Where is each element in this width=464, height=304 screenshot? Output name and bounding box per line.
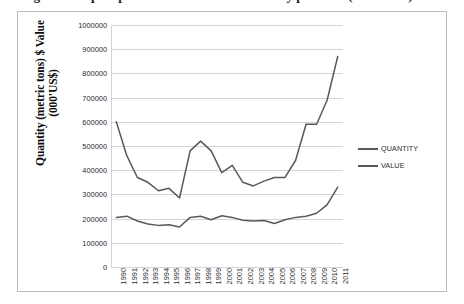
x-axis-tick-label: 2008 — [309, 268, 318, 304]
x-axis-tick-label: 2004 — [267, 268, 276, 304]
y-axis-tick-label: 100000 — [51, 238, 107, 247]
y-axis-tick-label: 600000 — [51, 117, 107, 126]
x-axis-tick-label: 2007 — [299, 268, 308, 304]
x-axis-tick-label: 1997 — [193, 268, 202, 304]
legend-item-label: VALUE — [381, 161, 405, 170]
y-axis-tick-labels: 1000000900000800000700000600000500000400… — [49, 25, 107, 267]
legend-item-value[interactable]: VALUE — [358, 157, 444, 174]
figure-caption-sliver: Figure 1: Export performance of fish and… — [0, 0, 464, 8]
legend-line-swatch — [358, 148, 378, 150]
y-axis-tick-label: 700000 — [51, 93, 107, 102]
x-axis-tick-label: 1990 — [119, 268, 128, 304]
x-axis-tick-label: 1996 — [183, 268, 192, 304]
x-axis-tick-label: 2010 — [330, 268, 339, 304]
x-axis-tick-label: 1995 — [172, 268, 181, 304]
series-line-quantity — [116, 187, 337, 227]
x-axis-tick-label: 2000 — [225, 268, 234, 304]
chart-legend: QUANTITYVALUE — [358, 140, 444, 174]
y-axis-tick-label: 800000 — [51, 69, 107, 78]
x-axis-tick-label: 2003 — [257, 268, 266, 304]
y-axis-tick-label: 400000 — [51, 166, 107, 175]
x-axis-tick-label: 1998 — [204, 268, 213, 304]
legend-line-swatch — [358, 165, 378, 167]
y-axis-tick-label: 300000 — [51, 190, 107, 199]
x-axis-tick-labels: 1990199119921993199419951996199719981999… — [111, 268, 343, 304]
y-axis-tick-label: 900000 — [51, 45, 107, 54]
x-axis-tick-label: 2011 — [341, 268, 350, 304]
y-axis-tick-label: 200000 — [51, 214, 107, 223]
x-axis-tick-label: 2002 — [246, 268, 255, 304]
x-axis-tick-label: 1999 — [214, 268, 223, 304]
legend-item-quantity[interactable]: QUANTITY — [358, 140, 444, 157]
figure-caption-text: Figure 1: Export performance of fish and… — [22, 0, 413, 4]
x-axis-tick-label: 2005 — [278, 268, 287, 304]
chart-frame: Quantity (metric tons) $ Value (000'US$)… — [17, 11, 447, 292]
x-axis-tick-label: 1992 — [141, 268, 150, 304]
legend-item-label: QUANTITY — [381, 144, 418, 153]
y-axis-tick-label: 0 — [51, 263, 107, 272]
x-axis-tick-label: 2006 — [288, 268, 297, 304]
y-axis-tick-label: 500000 — [51, 142, 107, 151]
x-axis-tick-label: 1993 — [151, 268, 160, 304]
x-axis-tick-label: 2009 — [320, 268, 329, 304]
plot-area — [111, 25, 343, 267]
y-axis-tick-label: 1000000 — [51, 21, 107, 30]
y-axis-title-line1: Quantity (metric tons) $ Value — [34, 20, 46, 166]
x-axis-tick-label: 1991 — [130, 268, 139, 304]
series-line-value — [116, 56, 337, 198]
x-axis-tick-label: 1994 — [162, 268, 171, 304]
series-lines — [111, 25, 343, 267]
x-axis-tick-label: 2001 — [235, 268, 244, 304]
